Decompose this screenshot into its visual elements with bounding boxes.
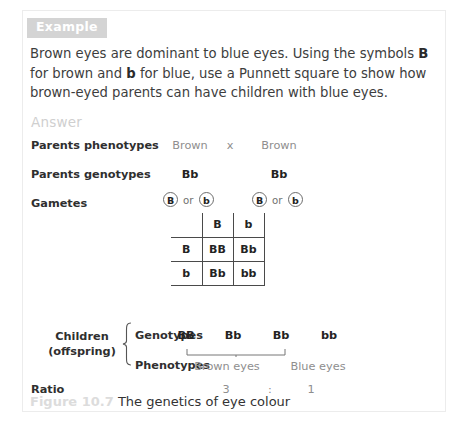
- badge-row: Example: [23, 18, 445, 40]
- genotype-2: Bb: [268, 329, 294, 342]
- parents-phenotypes-left: Brown: [164, 139, 216, 152]
- phenotype-blue-eyes: Blue eyes: [278, 360, 358, 373]
- example-card: Example Brown eyes are dominant to blue …: [22, 10, 446, 412]
- ratio-right: 1: [298, 383, 324, 396]
- punnett-row-0: B BB Bb: [171, 237, 264, 261]
- parents-genotypes-right: Bb: [253, 168, 305, 181]
- punnett-row-header-1: b: [171, 261, 202, 285]
- gamete-or-p2: or: [272, 195, 282, 206]
- figure-caption-title: The genetics of eye colour: [118, 394, 290, 409]
- children-line-1: Children: [43, 329, 121, 344]
- question-part-2: for brown and: [30, 66, 126, 81]
- question-text: Brown eyes are dominant to blue eyes. Us…: [30, 44, 435, 103]
- punnett-cell-0-1: Bb: [233, 237, 264, 261]
- question-part-1: Brown eyes are dominant to blue eyes. Us…: [30, 46, 418, 61]
- punnett-corner-cell: [171, 213, 202, 237]
- punnett-col-header-1: b: [233, 213, 264, 237]
- punnett-square: B b B BB Bb b Bb bb: [171, 213, 265, 286]
- figure-number: Figure 10.7: [30, 394, 114, 409]
- gamete-p2-recessive: b: [288, 192, 303, 207]
- phenotype-brown-eyes: Brown eyes: [182, 360, 272, 373]
- punnett-header-row: B b: [171, 213, 264, 237]
- children-brace-icon: [120, 322, 132, 366]
- children-line-2: (offspring): [43, 344, 121, 359]
- gamete-p2-dominant: B: [252, 192, 267, 207]
- punnett-cell-0-0: BB: [202, 237, 233, 261]
- symbol-recessive: b: [126, 66, 135, 81]
- example-badge: Example: [27, 18, 107, 38]
- parents-phenotypes-right: Brown: [253, 139, 305, 152]
- punnett-cell-1-1: bb: [233, 261, 264, 285]
- parents-genotypes-label: Parents genotypes: [31, 168, 151, 181]
- punnett-row-1: b Bb bb: [171, 261, 264, 285]
- punnett-cell-1-0: Bb: [202, 261, 233, 285]
- brown-eyes-grouping-bracket-icon: [186, 348, 286, 357]
- symbol-dominant: B: [418, 46, 428, 61]
- answer-label: Answer: [31, 114, 82, 130]
- parents-phenotypes-operator: x: [223, 139, 237, 152]
- children-offspring-label: Children (offspring): [43, 329, 121, 359]
- gamete-p1-recessive: b: [199, 192, 214, 207]
- punnett-col-header-0: B: [202, 213, 233, 237]
- figure-caption: Figure 10.7 The genetics of eye colour: [30, 394, 290, 409]
- punnett-row-header-0: B: [171, 237, 202, 261]
- gamete-p1-dominant: B: [163, 192, 178, 207]
- genotype-3: bb: [316, 329, 342, 342]
- gamete-or-p1: or: [183, 195, 193, 206]
- gametes-label: Gametes: [31, 197, 87, 210]
- genotype-1: Bb: [220, 329, 246, 342]
- genotype-0: BB: [173, 329, 199, 342]
- parents-phenotypes-label: Parents phenotypes: [31, 139, 159, 152]
- parents-genotypes-left: Bb: [164, 168, 216, 181]
